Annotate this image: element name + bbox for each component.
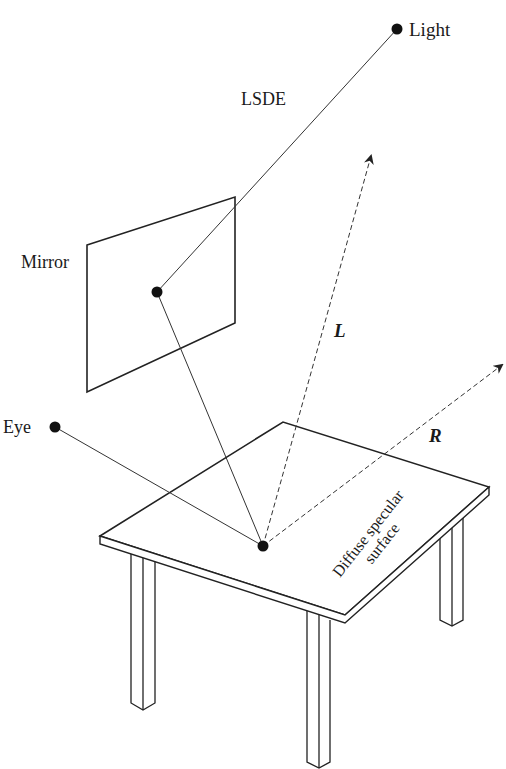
eye-point-icon bbox=[50, 422, 61, 433]
table-top bbox=[100, 422, 489, 623]
light-label: Light bbox=[409, 19, 451, 40]
light-point-icon bbox=[392, 24, 403, 35]
vector-R-label: R bbox=[428, 425, 442, 446]
lsde-label: LSDE bbox=[241, 89, 286, 109]
surface-hit-point-icon bbox=[258, 541, 269, 552]
mirror-hit-point-icon bbox=[152, 287, 163, 298]
light-path-diagram: Light LSDE Mirror Eye L R Diffuse specul… bbox=[0, 0, 506, 769]
mirror-label: Mirror bbox=[21, 252, 69, 272]
ray-light-to-mirror bbox=[157, 29, 397, 292]
eye-label: Eye bbox=[3, 417, 31, 437]
vector-L-label: L bbox=[333, 320, 346, 341]
